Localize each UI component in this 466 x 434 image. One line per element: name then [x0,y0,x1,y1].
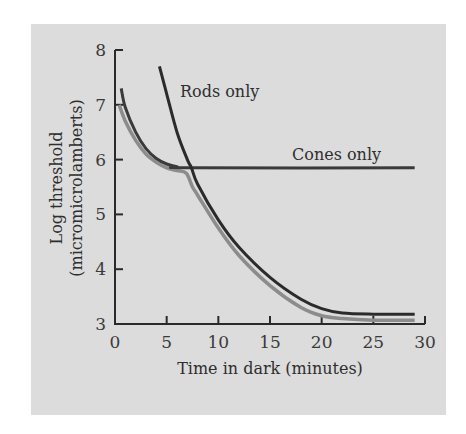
x-tick-label: 10 [208,332,230,352]
x-tick-label: 0 [110,332,121,352]
y-axis-title: Log threshold (micromicrolamberts) [47,99,86,276]
x-axis-title: Time in dark (minutes) [177,359,363,378]
rods-only-line [159,66,414,314]
dark-adaptation-chart: 051015202530345678 Rods only Cones only … [0,0,466,434]
y-tick-label: 5 [95,204,106,224]
series-lines [119,66,415,320]
x-tick-label: 5 [161,332,172,352]
y-axis-title-line2: (micromicrolamberts) [67,99,86,276]
y-tick-label: 7 [95,95,106,115]
tick-labels: 051015202530345678 [95,40,436,352]
y-tick-label: 6 [95,150,106,170]
x-tick-label: 30 [414,332,436,352]
cones-only-label: Cones only [292,145,381,164]
y-tick-label: 3 [95,314,106,334]
y-axis-title-line1: Log threshold [47,132,66,245]
y-tick-label: 8 [95,40,106,60]
x-tick-label: 25 [363,332,385,352]
rods-only-label: Rods only [180,82,259,101]
x-tick-label: 15 [259,332,281,352]
x-tick-label: 20 [311,332,333,352]
combined-threshold-line [119,105,415,320]
y-tick-label: 4 [95,259,106,279]
